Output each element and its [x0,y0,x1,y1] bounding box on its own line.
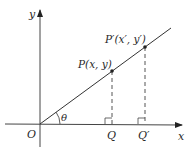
point-P-prime [143,45,147,49]
foot-Q-prime-label: Q′ [138,129,150,142]
foot-Q-label: Q [107,129,116,142]
y-axis-label: y [28,8,36,21]
right-angle-mark-Qp [138,118,145,124]
angle-label: θ [61,112,67,123]
x-axis [5,124,182,125]
point-P-prime-label: P′(x′, y′) [104,33,146,45]
coordinate-diagram: y x O θ P(x, y) P′(x′, y′) Q Q′ [0,0,196,152]
x-axis-label: x [178,130,185,143]
point-P-label: P(x, y) [77,58,112,70]
origin-label: O [27,128,36,141]
right-angle-mark-Q [105,118,112,124]
angle-arc [56,112,60,124]
